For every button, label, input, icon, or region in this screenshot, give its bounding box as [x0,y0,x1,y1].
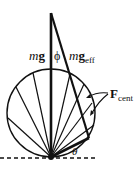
mg-label: mg [29,48,45,63]
f-cent-vector [51,138,89,157]
phi-label: ϕ [54,49,60,63]
mg-eff-vector [51,13,89,138]
mg-eff-label: mgeff [69,48,95,65]
pendulum-force-diagram: mg ϕ mgeff Fcent θ [0,0,140,171]
f-cent-label: Fcent [110,86,133,103]
theta-label: θ [72,145,78,157]
apex-point [48,154,54,160]
